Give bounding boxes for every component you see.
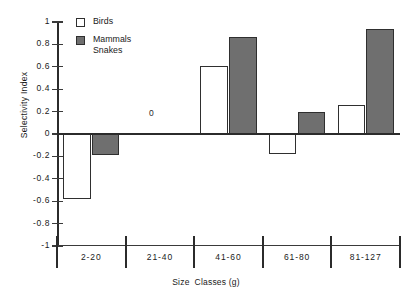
legend-label-mammals-line2: Snakes xyxy=(93,45,131,56)
bar-birds-41-60 xyxy=(200,66,227,134)
zero-line xyxy=(57,133,400,135)
x-axis-category-label: 81-127 xyxy=(331,252,400,262)
y-axis-tick-label: 0.4 xyxy=(4,83,50,93)
x-axis-category-label: 61-80 xyxy=(263,252,332,262)
legend-swatch-birds-icon xyxy=(76,18,85,27)
y-axis-tick-label: 0 xyxy=(4,128,50,138)
y-axis-tick-label: 0.2 xyxy=(4,106,50,116)
x-axis-category-label: 21-40 xyxy=(126,252,195,262)
y-axis-tick-label: -0.2 xyxy=(4,150,50,160)
bar-birds-2-20 xyxy=(63,134,90,199)
y-axis-tick-label: -0.6 xyxy=(4,195,50,205)
x-axis-category-label: 2-20 xyxy=(57,252,126,262)
y-axis-tick-label: -0.4 xyxy=(4,173,50,183)
bar-mammals-snakes-61-80 xyxy=(298,112,325,134)
selectivity-index-bar-chart: Selectivity Index 10.80.60.40.20-0.2-0.4… xyxy=(0,0,412,306)
y-axis-tick-label: 1 xyxy=(4,16,50,26)
plot-area: 0 xyxy=(57,22,400,246)
x-axis-title-part1: Size xyxy=(172,277,189,287)
bar-birds-81-127 xyxy=(338,105,365,134)
legend-label-mammals: MammalsSnakes xyxy=(93,34,131,55)
zero-value-annotation: 0 xyxy=(149,108,154,118)
legend-label-mammals-line1: Mammals xyxy=(93,34,131,44)
bar-mammals-snakes-41-60 xyxy=(229,37,256,134)
x-axis-category-label: 41-60 xyxy=(194,252,263,262)
x-axis-title: SizeClasses (g) xyxy=(0,277,412,287)
legend-swatch-mammals-icon xyxy=(76,36,85,45)
x-axis-baseline xyxy=(57,245,400,247)
bar-mammals-snakes-81-127 xyxy=(366,29,393,134)
y-axis-tick-label: 0.6 xyxy=(4,61,50,71)
x-axis-title-part2: Classes (g) xyxy=(195,277,240,287)
y-axis-tick-label: -0.8 xyxy=(4,218,50,228)
bar-mammals-snakes-2-20 xyxy=(92,134,119,155)
y-axis-tick-label: -1 xyxy=(4,240,50,250)
y-axis-tick-label: 0.8 xyxy=(4,38,50,48)
bar-birds-61-80 xyxy=(269,134,296,154)
legend-label-birds: Birds xyxy=(93,16,113,27)
